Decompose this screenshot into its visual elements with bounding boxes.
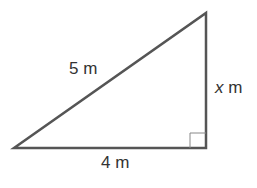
base-label: 4 m: [101, 153, 129, 173]
vertical-side-label: x m: [215, 78, 242, 98]
unit: m: [224, 78, 243, 97]
triangle: [14, 13, 206, 148]
right-angle-marker: [190, 133, 206, 148]
variable-x: x: [215, 78, 224, 97]
hypotenuse-label: 5 m: [69, 59, 97, 79]
